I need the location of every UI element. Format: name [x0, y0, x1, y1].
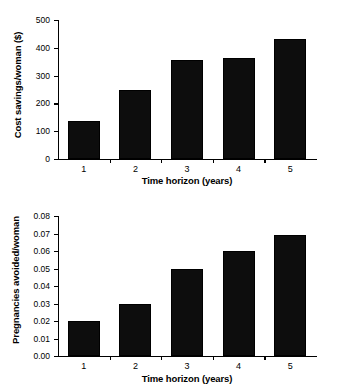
bar [223, 251, 255, 356]
x-axis-tick-label: 5 [288, 164, 293, 174]
y-axis-tick-label: 0.08 [24, 211, 50, 221]
y-axis-tick-label: 400 [28, 43, 50, 53]
x-axis-tick-label: 1 [81, 164, 86, 174]
y-axis-tick-label: 0.05 [24, 264, 50, 274]
y-axis-tick [54, 304, 58, 305]
bar [171, 60, 203, 159]
y-axis-tick [54, 76, 58, 77]
x-axis-tick-label: 5 [288, 361, 293, 371]
y-axis-tick-label: 0.02 [24, 316, 50, 326]
bar [274, 235, 306, 356]
y-axis-tick-label: 100 [28, 126, 50, 136]
y-axis-tick [54, 216, 58, 217]
y-axis-tick [54, 251, 58, 252]
bar [274, 39, 306, 159]
y-axis-tick-label: 0.03 [24, 299, 50, 309]
y-axis-tick-label: 0.07 [24, 229, 50, 239]
y-axis-line [58, 216, 59, 357]
x-axis-tick-label: 2 [133, 361, 138, 371]
x-axis-tick [110, 159, 111, 163]
y-axis-tick [54, 48, 58, 49]
y-axis-tick [54, 269, 58, 270]
x-axis-tick [213, 159, 214, 163]
x-axis-title: Time horizon (years) [58, 175, 316, 186]
x-axis-tick [110, 356, 111, 360]
bar [68, 121, 100, 159]
x-axis-tick-label: 2 [133, 164, 138, 174]
bar [68, 321, 100, 356]
x-axis-tick [161, 356, 162, 360]
y-axis-tick-label: 500 [28, 15, 50, 25]
y-axis-title: Cost savings/woman ($) [12, 10, 23, 160]
y-axis-tick [54, 234, 58, 235]
x-axis-tick-label: 4 [236, 164, 241, 174]
x-axis-title: Time horizon (years) [58, 373, 316, 384]
y-axis-tick-label: 300 [28, 71, 50, 81]
y-axis-tick-label: 0 [28, 154, 50, 164]
y-axis-tick [54, 356, 58, 357]
plot-area-bottom: 0.000.010.020.030.040.050.060.070.081234… [58, 216, 316, 356]
y-axis-line [58, 20, 59, 160]
x-axis-tick [161, 159, 162, 163]
cost-savings-chart: Cost savings/woman ($) 01002003004005001… [0, 0, 339, 196]
y-axis-tick [54, 339, 58, 340]
bar [119, 90, 151, 160]
x-axis-tick-label: 4 [236, 361, 241, 371]
y-axis-tick [54, 321, 58, 322]
y-axis-tick-label: 0.01 [24, 334, 50, 344]
y-axis-tick-label: 0.00 [24, 351, 50, 361]
y-axis-tick-label: 200 [28, 98, 50, 108]
bar [171, 269, 203, 357]
x-axis-tick-label: 3 [184, 361, 189, 371]
y-axis-tick [54, 131, 58, 132]
x-axis-tick [264, 356, 265, 360]
y-axis-tick [54, 20, 58, 21]
y-axis-tick [54, 159, 58, 160]
x-axis-line [58, 159, 317, 160]
bar [119, 304, 151, 357]
x-axis-tick-label: 1 [81, 361, 86, 371]
x-axis-tick-label: 3 [184, 164, 189, 174]
y-axis-tick [54, 103, 58, 104]
y-axis-tick-label: 0.06 [24, 246, 50, 256]
y-axis-title: Pregnancies avoided/woman [10, 200, 21, 360]
x-axis-tick [213, 356, 214, 360]
pregnancies-avoided-chart: Pregnancies avoided/woman 0.000.010.020.… [0, 196, 339, 392]
y-axis-tick [54, 286, 58, 287]
bar [223, 58, 255, 159]
plot-area-top: 010020030040050012345 [58, 20, 316, 159]
x-axis-line [58, 356, 317, 357]
y-axis-tick-label: 0.04 [24, 281, 50, 291]
x-axis-tick [264, 159, 265, 163]
